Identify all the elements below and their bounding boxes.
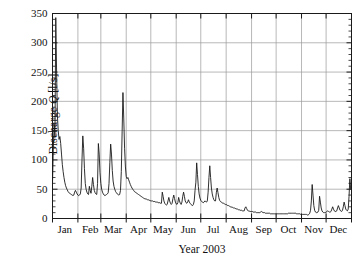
data-series-group — [53, 18, 351, 215]
data-line-discharge — [53, 18, 351, 215]
discharge-hydrograph-figure: Discharge Q [l/s] Year 2003 050100150200… — [0, 0, 364, 265]
plot-area — [0, 0, 364, 265]
